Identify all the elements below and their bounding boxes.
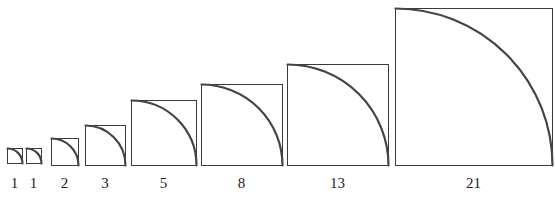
fibonacci-square [288,65,389,166]
square-size-label: 21 [466,175,481,191]
quarter-circle-arc [132,101,197,166]
squares-layer: 1123581321 [8,9,553,192]
square-size-label: 1 [30,175,38,191]
square-size-label: 2 [61,175,69,191]
fibonacci-square-group: 1 [27,149,42,192]
fibonacci-square-group: 3 [86,126,126,192]
fibonacci-square-group: 8 [202,85,283,192]
quarter-circle-arc [288,65,389,166]
square-size-label: 5 [160,175,168,191]
quarter-circle-arc [86,126,126,166]
quarter-circle-arc [202,85,283,166]
fibonacci-square-group: 5 [132,101,197,192]
square-size-label: 8 [238,175,246,191]
fibonacci-square-group: 1 [8,149,23,192]
square-size-label: 13 [330,175,345,191]
fibonacci-square-group: 13 [288,65,389,192]
square-size-label: 1 [11,175,19,191]
fibonacci-square-group: 21 [396,9,553,192]
fibonacci-squares-diagram: 1123581321 [0,0,555,202]
square-size-label: 3 [101,175,109,191]
fibonacci-square [202,85,283,166]
quarter-circle-arc [8,149,23,164]
fibonacci-square-group: 2 [52,139,79,192]
fibonacci-square [396,9,553,166]
quarter-circle-arc [27,149,42,164]
quarter-circle-arc [52,139,79,166]
quarter-circle-arc [396,9,553,166]
